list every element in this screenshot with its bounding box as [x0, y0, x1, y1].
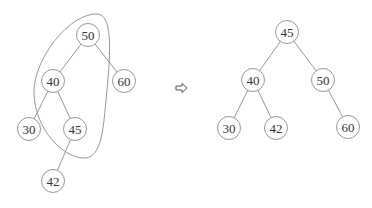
- tree-rotation-diagram: 50 40 60 30 45 42: [0, 0, 372, 208]
- tree-node-60: 60: [113, 70, 136, 93]
- tree-node-50: 50: [312, 69, 335, 92]
- node-label: 40: [47, 74, 60, 89]
- node-label: 60: [118, 74, 131, 89]
- after-tree-nodes: 45 40 50 30 42 60: [218, 21, 360, 140]
- node-label: 30: [23, 122, 36, 137]
- tree-node-42: 42: [265, 117, 288, 140]
- right-arrow-icon: [176, 84, 187, 93]
- tree-node-60: 60: [337, 116, 360, 139]
- tree-node-30: 30: [218, 117, 241, 140]
- tree-node-45: 45: [64, 118, 87, 141]
- node-label: 40: [247, 73, 260, 88]
- node-label: 30: [223, 121, 236, 136]
- tree-node-40: 40: [242, 69, 265, 92]
- node-label: 42: [47, 174, 60, 189]
- node-label: 60: [342, 120, 355, 135]
- tree-node-45: 45: [276, 21, 299, 44]
- node-label: 50: [317, 73, 330, 88]
- tree-node-40: 40: [42, 70, 65, 93]
- tree-node-30: 30: [18, 118, 41, 141]
- tree-node-42: 42: [42, 170, 65, 193]
- node-label: 42: [270, 121, 283, 136]
- node-label: 50: [82, 28, 95, 43]
- before-tree-nodes: 50 40 60 30 45 42: [18, 24, 136, 193]
- node-label: 45: [69, 122, 82, 137]
- node-label: 45: [281, 25, 294, 40]
- tree-node-50: 50: [77, 24, 100, 47]
